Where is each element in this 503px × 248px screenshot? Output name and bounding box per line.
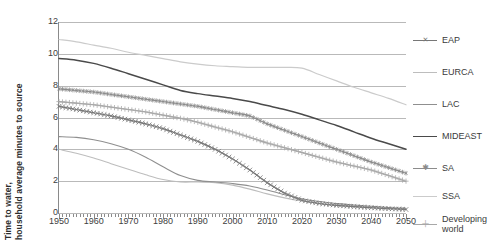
- legend-label: LAC: [442, 99, 460, 109]
- y-axis-tick-label: 12: [36, 17, 58, 26]
- legend-item-ssa[interactable]: SSA: [412, 190, 460, 202]
- x-axis-tick-label: 2010: [250, 216, 284, 226]
- series-eap: [57, 104, 409, 212]
- x-axis-tick-label: 1950: [42, 216, 76, 226]
- legend-line: [413, 196, 437, 197]
- plot-area: [59, 22, 406, 213]
- y-axis-tick-label: 10: [36, 49, 58, 58]
- legend-swatch: ＋: [412, 218, 438, 230]
- legend-marker-x: ✕: [421, 35, 430, 45]
- legend-item-eurca[interactable]: EURCA: [412, 66, 474, 78]
- legend-label: MIDEAST: [442, 131, 482, 141]
- legend-line: [413, 72, 437, 73]
- x-axis-tick-label: 1970: [111, 216, 145, 226]
- series-lines: [59, 22, 406, 213]
- legend-label: SA: [442, 163, 454, 173]
- legend-line: [413, 104, 437, 105]
- series-mideast: [59, 59, 406, 150]
- legend-label: Developing world: [442, 214, 500, 235]
- y-axis-tick-labels: 024681012: [32, 0, 58, 248]
- x-axis-tick-label: 2030: [320, 216, 354, 226]
- legend-marker-plus: ＋: [421, 219, 430, 229]
- x-axis-tick-label: 1960: [77, 216, 111, 226]
- legend-swatch: [412, 130, 438, 142]
- chart-legend: ✕EAPEURCALACMIDEAST✱SASSA＋Developing wor…: [412, 28, 503, 243]
- legend-item-developing-world[interactable]: ＋Developing world: [412, 218, 500, 230]
- y-axis-title-line1: Time to water,: [3, 182, 13, 240]
- x-axis-tick-label: 2020: [285, 216, 319, 226]
- y-axis-tick-label: 6: [36, 113, 58, 122]
- legend-label: SSA: [442, 191, 460, 201]
- x-axis-tick-label: 2000: [216, 216, 250, 226]
- legend-item-eap[interactable]: ✕EAP: [412, 34, 460, 46]
- legend-item-mideast[interactable]: MIDEAST: [412, 130, 482, 142]
- chart-container: Time to water, household average minutes…: [0, 0, 503, 248]
- legend-item-sa[interactable]: ✱SA: [412, 162, 454, 174]
- legend-swatch: ✱: [412, 162, 438, 174]
- legend-label: EAP: [442, 35, 460, 45]
- legend-line: [413, 136, 437, 138]
- legend-swatch: [412, 190, 438, 202]
- y-axis-tick-label: 4: [36, 144, 58, 153]
- x-axis-tick-label: 2040: [354, 216, 388, 226]
- y-axis-title-line2: household average minutes to source: [14, 83, 24, 240]
- x-axis-tick-label: 1980: [146, 216, 180, 226]
- x-axis-tick-label: 1990: [181, 216, 215, 226]
- legend-label: EURCA: [442, 67, 474, 77]
- series-lac: [59, 137, 406, 209]
- legend-marker-asterisk: ✱: [421, 163, 430, 173]
- y-axis-tick-label: 2: [36, 176, 58, 185]
- legend-swatch: [412, 98, 438, 110]
- legend-swatch: ✕: [412, 34, 438, 46]
- y-axis-tick-label: 8: [36, 81, 58, 90]
- legend-swatch: [412, 66, 438, 78]
- legend-item-lac[interactable]: LAC: [412, 98, 460, 110]
